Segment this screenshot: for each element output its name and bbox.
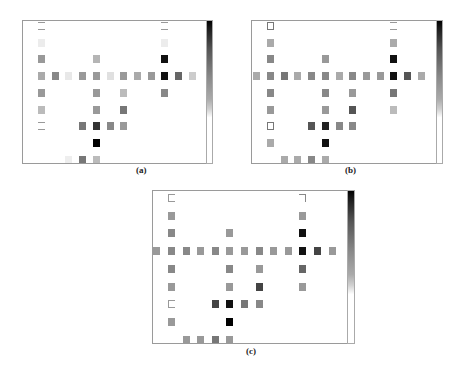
heatmap-cell <box>267 72 274 80</box>
heatmap-cell <box>256 247 263 255</box>
heatmap-cell <box>299 265 306 273</box>
heatmap-cell <box>322 122 329 130</box>
heatmap-cell <box>168 212 175 220</box>
heatmap-cell <box>161 39 168 47</box>
heatmap-cell <box>212 300 219 308</box>
heatmap-cell <box>120 89 127 97</box>
heatmap-cell <box>390 89 397 97</box>
heatmap-cell <box>153 247 160 255</box>
heatmap-cell <box>226 300 233 308</box>
heatmap-cell <box>363 72 370 80</box>
heatmap-cell <box>107 122 114 130</box>
heatmap-cell <box>120 106 127 114</box>
heatmap-cell <box>161 55 168 63</box>
heatmap-cell <box>267 39 274 47</box>
heatmap-cell <box>322 55 329 63</box>
heatmap-cell <box>120 122 127 130</box>
heatmap-cell <box>256 265 263 273</box>
heatmap-frame <box>22 20 213 164</box>
heatmap-cell <box>418 72 425 80</box>
heatmap-cell <box>281 72 288 80</box>
heatmap-cell <box>299 283 306 291</box>
panel-label: (a) <box>136 165 147 175</box>
heatmap-cell <box>349 89 356 97</box>
heatmap-cell <box>226 247 233 255</box>
heatmap-cell <box>107 72 114 80</box>
heatmap-cell <box>294 72 301 80</box>
heatmap-cell <box>226 336 233 344</box>
heatmap-cell <box>120 72 127 80</box>
heatmap-cell <box>161 22 168 30</box>
heatmap-cell <box>322 139 329 147</box>
heatmap-cell <box>168 283 175 291</box>
heatmap-cell <box>93 55 100 63</box>
heatmap-cell <box>38 55 45 63</box>
heatmap-cell <box>349 72 356 80</box>
heatmap-cell <box>93 139 100 147</box>
heatmap-cell <box>79 122 86 130</box>
heatmap-cell <box>38 122 45 130</box>
heatmap-cell <box>161 72 168 80</box>
panel-label: (c) <box>246 346 256 356</box>
heatmap-cell <box>226 283 233 291</box>
heatmap-cell <box>134 72 141 80</box>
heatmap-cell <box>161 89 168 97</box>
heatmap-cell <box>197 247 204 255</box>
heatmap-cell <box>175 72 182 80</box>
heatmap-cell <box>329 247 336 255</box>
heatmap-cell <box>212 336 219 344</box>
heatmap-cell <box>267 106 274 114</box>
heatmap-cell <box>299 194 306 202</box>
heatmap-cell <box>168 229 175 237</box>
heatmap-cell <box>308 72 315 80</box>
heatmap-cell <box>322 106 329 114</box>
heatmap-cell <box>93 89 100 97</box>
heatmap-cell <box>281 156 288 164</box>
panel-label: (b) <box>345 165 356 175</box>
heatmap-cell <box>308 156 315 164</box>
heatmap-cell <box>299 247 306 255</box>
heatmap-cell <box>267 22 274 30</box>
heatmap-cell <box>336 72 343 80</box>
heatmap-cell <box>168 194 175 202</box>
colorbar <box>206 20 213 164</box>
heatmap-cell <box>79 72 86 80</box>
heatmap-cell <box>404 72 411 80</box>
heatmap-cell <box>267 55 274 63</box>
heatmap-cell <box>183 336 190 344</box>
heatmap-cell <box>52 72 59 80</box>
heatmap-cell <box>322 156 329 164</box>
heatmap-cell <box>390 22 397 30</box>
heatmap-cell <box>285 247 292 255</box>
heatmap-cell <box>390 72 397 80</box>
colorbar <box>347 190 355 344</box>
heatmap-cell <box>270 247 277 255</box>
heatmap-cell <box>93 122 100 130</box>
heatmap-cell <box>294 156 301 164</box>
heatmap-cell <box>226 229 233 237</box>
heatmap-cell <box>256 283 263 291</box>
heatmap-cell <box>197 336 204 344</box>
heatmap-cell <box>299 212 306 220</box>
heatmap-cell <box>65 72 72 80</box>
heatmap-cell <box>349 122 356 130</box>
heatmap-cell <box>168 318 175 326</box>
heatmap-cell <box>226 318 233 326</box>
heatmap-cell <box>299 229 306 237</box>
heatmap-cell <box>390 106 397 114</box>
heatmap-cell <box>93 156 100 164</box>
heatmap-cell <box>349 106 356 114</box>
heatmap-cell <box>314 247 321 255</box>
heatmap-cell <box>168 247 175 255</box>
heatmap-cell <box>148 72 155 80</box>
heatmap-cell <box>93 106 100 114</box>
heatmap-cell <box>253 72 260 80</box>
heatmap-cell <box>212 247 219 255</box>
heatmap-cell <box>93 72 100 80</box>
heatmap-cell <box>322 89 329 97</box>
heatmap-cell <box>38 22 45 30</box>
heatmap-cell <box>267 139 274 147</box>
heatmap-cell <box>189 72 196 80</box>
heatmap-cell <box>308 122 315 130</box>
heatmap-cell <box>38 39 45 47</box>
